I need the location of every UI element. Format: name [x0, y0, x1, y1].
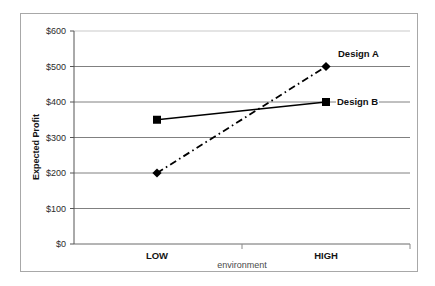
y-tick-label-100: $100 [30, 204, 66, 214]
y-tick-label-500: $500 [30, 62, 66, 72]
x-tick-label-high: HIGH [296, 250, 356, 261]
marker-design-a-high [321, 62, 330, 71]
series-design-a [152, 62, 330, 178]
series-label-design-b: Design B [336, 96, 379, 107]
marker-design-b-high [322, 98, 330, 106]
marker-design-b-low [153, 116, 161, 124]
x-tick-label-low: LOW [127, 250, 187, 261]
y-tick-label-400: $400 [30, 97, 66, 107]
series-label-design-a: Design A [337, 48, 380, 59]
y-axis-ticks [70, 31, 74, 244]
chart-container: $600 $500 $400 $300 $200 $100 $0 Expecte… [0, 0, 435, 286]
y-tick-label-0: $0 [30, 239, 66, 249]
x-axis-title: environment [192, 260, 292, 270]
y-tick-label-600: $600 [30, 26, 66, 36]
gridlines [74, 31, 410, 244]
y-axis-title: Expected Profit [31, 114, 41, 180]
x-axis-ticks [242, 244, 410, 249]
marker-design-a-low [152, 168, 161, 177]
